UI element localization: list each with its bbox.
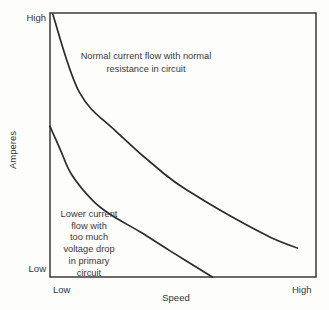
- current-vs-speed-figure: High Low Amperes Low High Speed Normal c…: [0, 0, 329, 310]
- annotation-lower-current: Lower current flow with too much voltage…: [50, 209, 128, 279]
- y-axis-label: Amperes: [7, 110, 19, 190]
- y-tick-high: High: [14, 12, 46, 23]
- x-tick-low: Low: [53, 284, 70, 295]
- x-tick-high: High: [292, 284, 322, 295]
- x-axis-label: Speed: [136, 292, 216, 303]
- annotation-normal-current: Normal current flow with normal resistan…: [66, 50, 226, 75]
- y-tick-low: Low: [14, 263, 46, 274]
